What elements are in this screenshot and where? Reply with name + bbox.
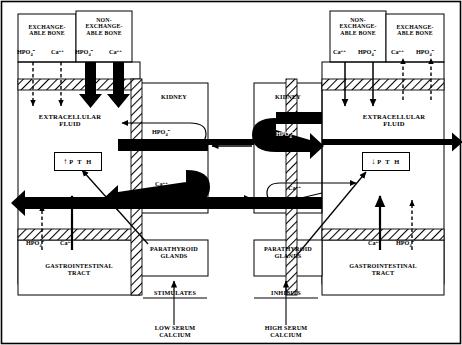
left-kidney-label: KIDNEY [140,94,208,101]
left-gi-calcium-ion: Ca++ [60,239,73,246]
right-exch-phosphate-ion: HPO4= [416,48,434,57]
right-kidney-calcium-ion: Ca++ [288,184,301,191]
left-exch-calcium-ion: Ca++ [51,48,64,55]
right-nonexch-phosphate-ion: HPO4= [358,48,376,57]
left-kidney-calcium-ion: Ca++ [155,180,168,187]
left-exch-phosphate-ion: HPO4= [17,48,35,57]
left-trigger-label: LOW SERUM CALCIUM [138,325,212,338]
right-gut-membrane-band [322,229,444,240]
right-pth-arrow-glyph: ↓ [371,157,375,166]
left-gi-phosphate-ion: HPO4= [26,239,44,248]
left-parathyroid-label: PARATHYROID GLANDS [140,246,208,259]
left-nonexch-phosphate-ion: HPO4= [75,48,93,57]
left-pth-box: ↑P T H [54,152,102,171]
left-nonexch-calcium-ion: Ca++ [109,48,122,55]
right-kidney-label: KIDNEY [254,94,322,101]
right-trigger-label: HIGH SERUM CALCIUM [249,325,323,338]
left-kidney-phosphate-thickbar [118,139,208,151]
right-gi-phosphate-ion: HPO4= [396,239,414,248]
left-ecf-label: EXTRACELLULAR FLUID [10,113,130,127]
diagram-canvas: EXCHANGE- ABLE BONE NON- EXCHANGE- ABLE … [0,0,462,345]
right-parathyroid-label: PARATHYROID GLANDS [254,246,322,259]
left-kidney-phosphate-ion: HPO4= [152,128,170,137]
left-gi-label: GASTROINTESTINAL TRACT [18,263,140,276]
left-exchangeable-bone-label: EXCHANGE- ABLE BONE [18,24,76,37]
right-exchangeable-bone-label: EXCHANGE- ABLE BONE [386,24,444,37]
right-kidney-phosphate-ion: HPO4= [276,130,294,139]
right-nonexch-calcium-ion: Ca++ [333,48,346,55]
right-gi-calcium-ion: Ca++ [368,239,381,246]
left-pth-arrow-glyph: ↑ [63,157,67,166]
right-gi-label: GASTROINTESTINAL TRACT [322,263,444,276]
right-pth-label: P T H [377,158,401,165]
left-nonexchangeable-bone-label: NON- EXCHANGE- ABLE BONE [76,17,132,36]
right-bone-membrane-band [322,79,444,90]
left-pth-label: P T H [69,158,93,165]
left-effect-label: STIMULATES [143,290,207,297]
right-nonexchangeable-bone-label: NON- EXCHANGE- ABLE BONE [330,17,386,36]
right-pth-box: ↓P T H [362,152,410,171]
right-exch-calcium-ion: Ca++ [391,48,404,55]
right-ecf-label: EXTRACELLULAR FLUID [334,113,454,127]
right-effect-label: INHIBITS [254,290,318,297]
